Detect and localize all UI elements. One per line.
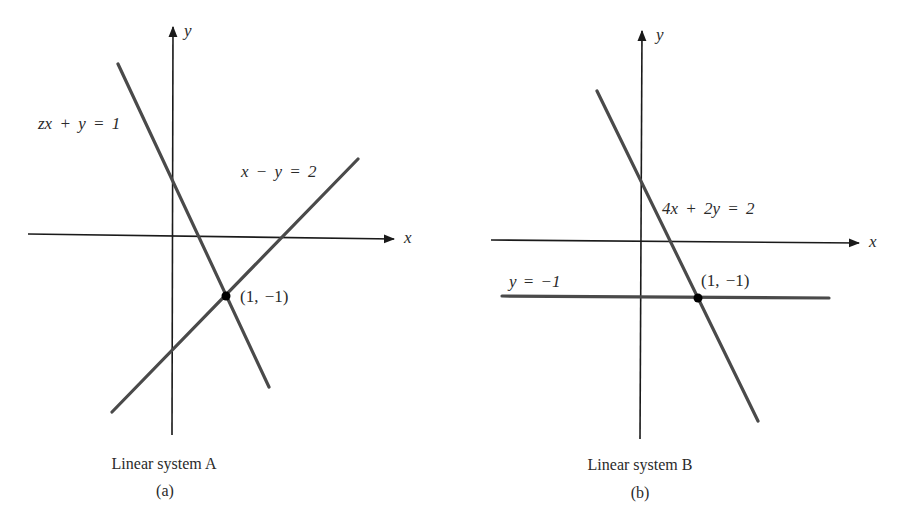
panel-a-equation-2: x − y = 2 xyxy=(241,163,317,180)
panel-a-line-x-minus-y xyxy=(112,159,358,412)
diagram-canvas xyxy=(0,0,906,515)
panel-a-line-zx-plus-y xyxy=(118,64,269,387)
panel-b-y-axis xyxy=(640,31,642,439)
panel-b-line-4x-plus-2y xyxy=(597,91,758,421)
panel-b-equation-1: 4x + 2y = 2 xyxy=(662,200,755,217)
panel-b-intersection-label: (1, −1) xyxy=(701,272,749,289)
panel-b-caption: Linear system B xyxy=(572,456,708,474)
panel-a-y-axis-label: y xyxy=(184,22,192,39)
panel-b-y-axis-label: y xyxy=(656,26,664,43)
panel-a-equation-1: zx + y = 1 xyxy=(38,115,120,132)
panel-b-x-axis-label: x xyxy=(869,233,877,250)
panel-a-sublabel: (a) xyxy=(145,482,185,500)
panel-a-y-axis xyxy=(172,27,173,435)
panel-b-x-axis xyxy=(491,240,859,243)
panel-b-equation-2: y = −1 xyxy=(509,273,561,290)
panel-a-x-axis-label: x xyxy=(404,229,412,246)
panel-b-intersection-point xyxy=(694,294,703,303)
panel-a-graph xyxy=(28,27,394,435)
panel-a-caption: Linear system A xyxy=(96,455,232,473)
panel-a-x-axis xyxy=(28,234,394,239)
panel-b-graph xyxy=(491,31,859,439)
panel-a-intersection-point xyxy=(222,292,231,301)
panel-a-intersection-label: (1, −1) xyxy=(240,288,288,305)
panel-b-line-y-equals-minus-1 xyxy=(502,296,829,298)
panel-b-sublabel: (b) xyxy=(620,484,660,502)
